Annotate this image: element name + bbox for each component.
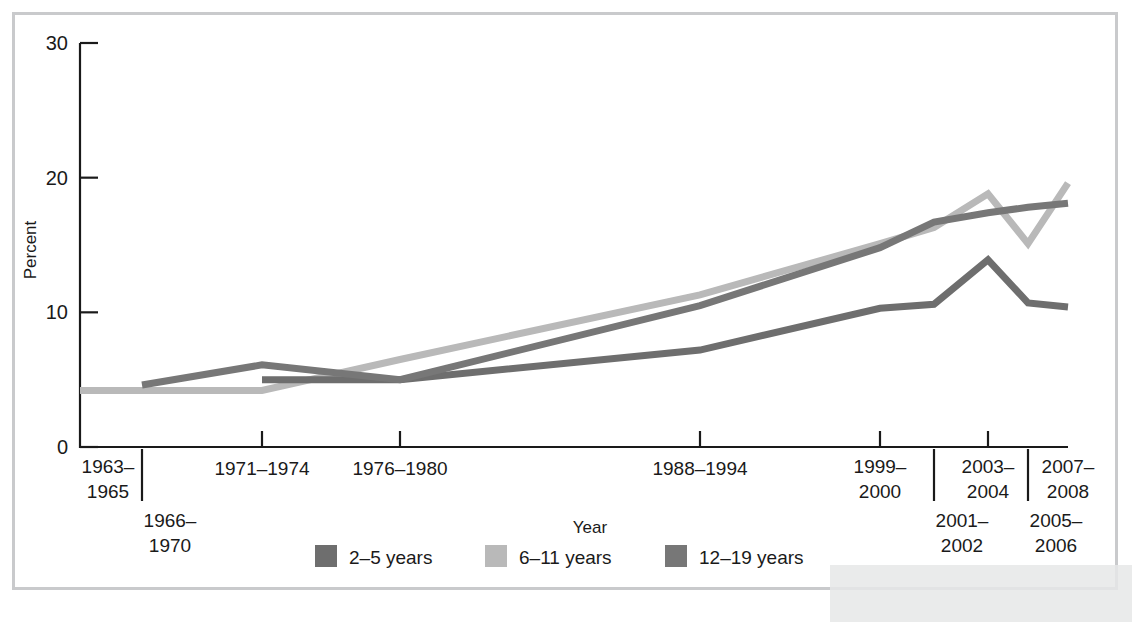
figure-frame <box>12 12 1118 590</box>
corner-shading <box>830 565 1132 622</box>
